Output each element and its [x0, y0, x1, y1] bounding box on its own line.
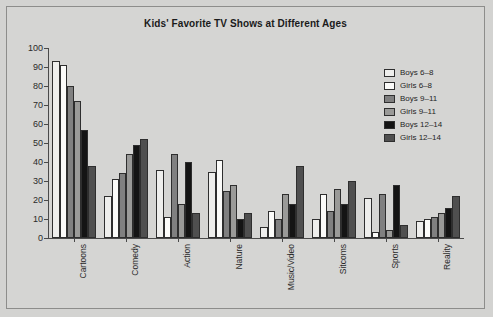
bar	[327, 211, 334, 238]
bar	[178, 204, 185, 238]
x-axis-category-label: Sitcoms	[338, 244, 348, 274]
bar	[312, 219, 319, 238]
bar	[74, 101, 81, 238]
bar	[452, 196, 459, 238]
bar-group	[156, 48, 199, 238]
x-axis-tick-mark	[230, 238, 231, 242]
bar	[364, 198, 371, 238]
bar	[260, 227, 267, 238]
bar	[275, 219, 282, 238]
legend-item[interactable]: Girls 12–14	[384, 131, 480, 144]
bar	[296, 166, 303, 238]
y-axis-tick-mark	[44, 48, 48, 49]
bar	[81, 130, 88, 238]
x-axis-tick-mark	[178, 238, 179, 242]
y-axis-tick-label: 50	[33, 138, 43, 148]
legend-item[interactable]: Girls 6–8	[384, 79, 480, 92]
y-axis-tick-label: 0	[38, 233, 43, 243]
bar	[88, 166, 95, 238]
bar	[372, 232, 379, 238]
bar	[230, 185, 237, 238]
bar	[268, 211, 275, 238]
bar	[216, 160, 223, 238]
bar	[282, 194, 289, 238]
x-axis-category-label: Comedy	[130, 244, 140, 276]
bar	[445, 208, 452, 238]
bar	[393, 185, 400, 238]
bar	[156, 170, 163, 238]
y-axis-tick-mark	[44, 67, 48, 68]
legend-swatch-icon	[384, 95, 395, 103]
bar-group	[260, 48, 303, 238]
y-axis-tick-mark	[44, 238, 48, 239]
x-axis-line	[48, 238, 464, 239]
bar	[223, 191, 230, 239]
legend-item-label: Boys 9–11	[400, 94, 437, 103]
bar	[140, 139, 147, 238]
bar	[52, 61, 59, 238]
bar	[289, 204, 296, 238]
legend-item-label: Girls 9–11	[400, 107, 436, 116]
legend-swatch-icon	[384, 69, 395, 77]
y-axis-tick-label: 100	[28, 43, 43, 53]
bar	[112, 179, 119, 238]
bar	[379, 194, 386, 238]
y-axis-tick-label: 90	[33, 62, 43, 72]
legend-swatch-icon	[384, 121, 395, 129]
x-axis-tick-mark	[334, 238, 335, 242]
bar	[60, 65, 67, 238]
bar	[104, 196, 111, 238]
bar	[67, 86, 74, 238]
y-axis-tick-mark	[44, 143, 48, 144]
y-axis-tick-label: 10	[33, 214, 43, 224]
legend-item[interactable]: Boys 9–11	[384, 92, 480, 105]
legend-swatch-icon	[384, 82, 395, 90]
y-axis-tick-label: 60	[33, 119, 43, 129]
legend-item[interactable]: Girls 9–11	[384, 105, 480, 118]
chart-frame: Kids' Favorite TV Shows at Different Age…	[6, 6, 485, 309]
y-axis-tick-mark	[44, 219, 48, 220]
x-axis-tick-mark	[386, 238, 387, 242]
bar	[208, 172, 215, 239]
chart-title: Kids' Favorite TV Shows at Different Age…	[7, 18, 484, 29]
y-axis-tick-mark	[44, 200, 48, 201]
y-axis-tick-label: 70	[33, 100, 43, 110]
y-axis-tick-label: 30	[33, 176, 43, 186]
y-axis-tick-mark	[44, 162, 48, 163]
x-axis-category-label: Music/Video	[286, 244, 296, 290]
x-axis-category-label: Reality	[442, 244, 452, 270]
legend-item-label: Girls 6–8	[400, 81, 432, 90]
x-axis-category-label: Cartoons	[78, 244, 88, 279]
x-axis-tick-mark	[282, 238, 283, 242]
x-axis-category-label: Sports	[390, 244, 400, 269]
legend-item-label: Boys 12–14	[400, 120, 442, 129]
bar	[341, 204, 348, 238]
bar	[416, 221, 423, 238]
bar	[386, 230, 393, 238]
y-axis-tick-mark	[44, 86, 48, 87]
y-axis-tick-label: 40	[33, 157, 43, 167]
x-axis-tick-mark	[126, 238, 127, 242]
bar	[171, 154, 178, 238]
bar	[400, 225, 407, 238]
legend-item[interactable]: Boys 6–8	[384, 66, 480, 79]
y-axis-tick-mark	[44, 105, 48, 106]
bar	[164, 217, 171, 238]
bar	[438, 213, 445, 238]
chart-legend: Boys 6–8Girls 6–8Boys 9–11Girls 9–11Boys…	[384, 66, 480, 144]
x-axis-category-label: Nature	[234, 244, 244, 270]
legend-item[interactable]: Boys 12–14	[384, 118, 480, 131]
bar	[348, 181, 355, 238]
y-axis-tick-label: 80	[33, 81, 43, 91]
bar	[431, 217, 438, 238]
x-axis-tick-mark	[74, 238, 75, 242]
bar	[185, 162, 192, 238]
legend-item-label: Boys 6–8	[400, 68, 433, 77]
bar-group	[208, 48, 251, 238]
y-axis-tick-label: 20	[33, 195, 43, 205]
y-axis-tick-mark	[44, 181, 48, 182]
bar-group	[312, 48, 355, 238]
bar	[237, 219, 244, 238]
legend-swatch-icon	[384, 134, 395, 142]
bar	[334, 189, 341, 238]
